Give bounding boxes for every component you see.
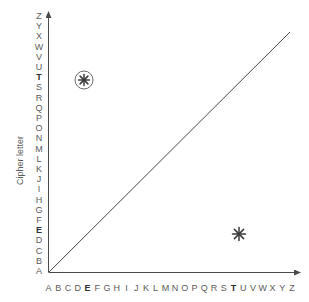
y-tick-L: L [33,155,45,164]
asterisk-marker [233,228,246,241]
y-tick-B: B [33,257,45,266]
y-tick-D: D [33,236,45,245]
y-tick-S: S [33,83,45,92]
circled-asterisk-marker [75,71,93,89]
y-tick-E: E [33,226,45,235]
plot-canvas [0,0,309,302]
y-tick-Y: Y [33,22,45,31]
y-tick-R: R [33,94,45,103]
y-tick-Z: Z [33,12,45,21]
cipher-letter-plot: Cipher letter ABCDEFGHIJKLMNOPQRSTUVWXYZ… [0,0,309,302]
y-tick-G: G [33,206,45,215]
y-tick-M: M [33,145,45,154]
y-tick-J: J [33,175,45,184]
y-tick-T: T [33,73,45,82]
y-tick-P: P [33,114,45,123]
y-tick-A: A [33,267,45,276]
y-tick-K: K [33,165,45,174]
identity-reference-line [49,32,290,272]
y-tick-H: H [33,196,45,205]
y-tick-V: V [33,53,45,62]
y-tick-N: N [33,134,45,143]
y-tick-Q: Q [33,104,45,113]
y-tick-X: X [33,32,45,41]
y-tick-W: W [33,43,45,52]
y-tick-F: F [33,216,45,225]
y-tick-U: U [33,63,45,72]
y-tick-O: O [33,124,45,133]
y-tick-I: I [33,185,45,194]
x-tick-Z: Z [286,284,298,293]
y-tick-C: C [33,247,45,256]
y-axis-title: Cipher letter [16,136,25,185]
